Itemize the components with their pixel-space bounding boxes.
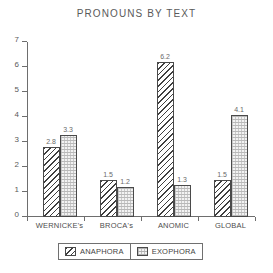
bar-group: 1.51.2 [100, 42, 134, 217]
x-axis-category-label: BROCA's [87, 221, 147, 230]
bar-value-label: 2.8 [46, 138, 56, 146]
bar-anaphora: 1.5 [214, 180, 231, 218]
x-axis-tick [27, 217, 28, 221]
bar-exophora: 3.3 [60, 135, 77, 218]
y-axis-tick-label: 3 [15, 135, 19, 145]
bar-anaphora: 1.5 [100, 180, 117, 218]
bar-group: 1.54.1 [214, 42, 248, 217]
bar-value-label: 6.2 [160, 53, 170, 61]
x-axis-category-label: ANOMIC [144, 221, 204, 230]
bar-exophora: 1.2 [117, 187, 134, 217]
y-axis-tick-label: 4 [15, 110, 19, 120]
bar-anaphora: 6.2 [157, 62, 174, 217]
bar-value-label: 1.5 [217, 171, 227, 179]
chart-legend: ANAPHORAEXOPHORA [58, 243, 203, 260]
y-axis-tick-label: 0 [15, 210, 19, 220]
y-axis-line [27, 42, 28, 217]
chart-title: PRONOUNS BY TEXT [0, 8, 273, 19]
y-axis-tick: 1 [22, 191, 27, 192]
y-axis-tick: 5 [22, 91, 27, 92]
plot-area: 01234567 2.83.31.51.26.21.31.54.1 [27, 42, 255, 217]
y-axis-tick-label: 7 [15, 35, 19, 45]
bar-value-label: 3.3 [63, 126, 73, 134]
y-axis-tick-label: 5 [15, 85, 19, 95]
y-axis-tick: 6 [22, 66, 27, 67]
y-axis-tick: 2 [22, 166, 27, 167]
y-axis-tick: 7 [22, 41, 27, 42]
legend-entry-exophora: EXOPHORA [130, 244, 202, 259]
bar-value-label: 1.5 [103, 171, 113, 179]
legend-label: EXOPHORA [152, 247, 196, 256]
bar-group: 2.83.3 [43, 42, 77, 217]
chart-container: PRONOUNS BY TEXT 01234567 2.83.31.51.26.… [0, 0, 273, 273]
bar-exophora: 4.1 [231, 115, 248, 218]
bar-group: 6.21.3 [157, 42, 191, 217]
bar-value-label: 4.1 [234, 106, 244, 114]
x-axis-category-label: WERNICKE's [30, 221, 90, 230]
y-axis-tick-label: 6 [15, 60, 19, 70]
legend-entry-anaphora: ANAPHORA [59, 244, 130, 259]
y-axis-tick: 3 [22, 141, 27, 142]
bar-value-label: 1.3 [177, 176, 187, 184]
legend-swatch-exophora [137, 247, 148, 256]
y-axis-tick: 4 [22, 116, 27, 117]
x-axis-category-label: GLOBAL [201, 221, 261, 230]
y-axis-tick-label: 1 [15, 185, 19, 195]
bar-anaphora: 2.8 [43, 147, 60, 217]
y-axis-tick-label: 2 [15, 160, 19, 170]
legend-swatch-anaphora [65, 247, 76, 256]
legend-label: ANAPHORA [80, 247, 124, 256]
bar-value-label: 1.2 [120, 178, 130, 186]
bar-exophora: 1.3 [174, 185, 191, 218]
